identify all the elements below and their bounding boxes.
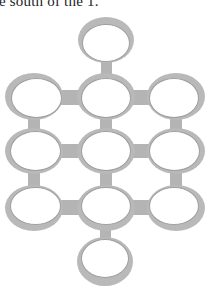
ring-hole xyxy=(149,78,199,118)
ring-hole xyxy=(81,131,131,171)
ring-r2c2 xyxy=(77,128,135,174)
ring-r1c2 xyxy=(77,73,135,120)
caption-text: e south of the 1. xyxy=(0,0,99,10)
ring-r2c3 xyxy=(147,128,205,174)
ring-r3c2 xyxy=(77,185,135,231)
ring-hole xyxy=(149,131,200,171)
ring-hole xyxy=(82,24,130,62)
ring-r3c1 xyxy=(5,185,63,231)
ring-r3c3 xyxy=(147,185,205,231)
ring-hole xyxy=(81,239,129,278)
ring-hole xyxy=(81,187,131,225)
ring-r2c1 xyxy=(5,128,63,174)
ring-r1c1 xyxy=(5,73,63,120)
ring-hole xyxy=(11,78,62,118)
ring-hole xyxy=(10,131,61,171)
ring-top xyxy=(78,17,134,63)
ring-hole xyxy=(149,187,199,225)
ring-hole xyxy=(81,78,131,118)
ring-r1c3 xyxy=(147,73,205,120)
ring-bottom xyxy=(77,237,133,286)
ring-hole xyxy=(10,187,61,225)
